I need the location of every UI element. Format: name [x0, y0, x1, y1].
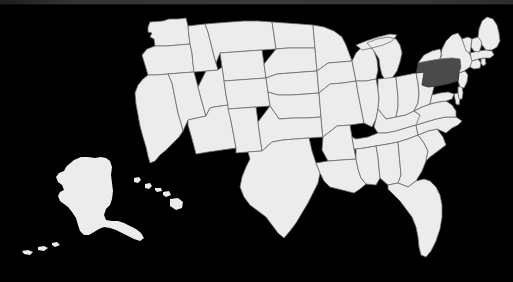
- us-map-container: [0, 5, 513, 282]
- state-WY[interactable]: [220, 50, 266, 81]
- state-CO[interactable]: [224, 78, 270, 109]
- state-OR[interactable]: [142, 44, 194, 75]
- state-RI[interactable]: [481, 58, 486, 66]
- us-map-svg: [0, 5, 513, 282]
- screenshot-viewport: [0, 0, 513, 282]
- state-WA[interactable]: [148, 18, 190, 46]
- state-ND[interactable]: [272, 22, 315, 49]
